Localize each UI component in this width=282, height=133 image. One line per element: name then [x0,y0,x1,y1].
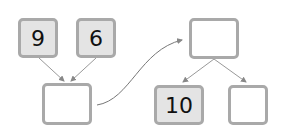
split-part-answer-box[interactable] [228,85,268,125]
sum-answer-box[interactable] [42,83,92,125]
arrow-top-to-10 [183,59,214,82]
arrow-top-to-empty [214,59,246,82]
number-box-10: 10 [154,85,204,125]
arrow-9-to-sum [39,58,64,81]
number-box-6: 6 [76,18,116,58]
number-box-9: 9 [18,18,58,58]
arrow-6-to-sum [71,58,96,81]
split-top-answer-box[interactable] [189,18,239,59]
